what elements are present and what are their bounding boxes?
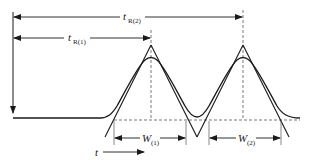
tR1-dimension: t R(1) (14, 31, 150, 46)
tR2-dimension: t R(2) (14, 10, 242, 25)
chromatogram-signal (13, 58, 300, 119)
W1-subscript: (1) (151, 139, 160, 147)
tR1-subscript: R(1) (73, 38, 87, 46)
time-axis: t (95, 146, 144, 158)
tR2-label: t (123, 10, 127, 22)
W2-dimension: W (2) (209, 121, 281, 147)
W2-subscript: (2) (247, 139, 256, 147)
peak-2-left-tangent (197, 45, 243, 137)
peak-2-right-tangent (243, 45, 289, 137)
peak-1-right-tangent (151, 45, 197, 137)
time-axis-label: t (95, 146, 99, 158)
tR2-subscript: R(2) (128, 17, 142, 25)
chromatogram-diagram: t R(2) t R(1) W (1) W (2) t (0, 0, 314, 166)
tR1-label: t (68, 31, 72, 43)
W1-dimension: W (1) (114, 121, 186, 147)
peak-1-left-tangent (105, 45, 151, 137)
